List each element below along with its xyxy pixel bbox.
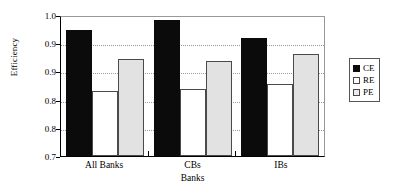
legend-item-label: RE <box>363 76 375 85</box>
bar-re-cbs[interactable] <box>180 89 206 156</box>
bar-ce-ibs[interactable] <box>241 38 267 156</box>
legend-item-ce[interactable]: CE <box>353 62 375 74</box>
x-axis-tick-label: All Banks <box>60 160 148 171</box>
bar-re-ibs[interactable] <box>267 84 293 156</box>
y-axis-title: Efficiency <box>9 17 19 97</box>
bar-groups <box>61 17 324 156</box>
y-axis-tick-label: 0.8 <box>30 124 56 133</box>
bar-ce-all-banks[interactable] <box>66 30 92 156</box>
legend-item-label: PE <box>363 88 374 97</box>
efficiency-bar-chart: Efficiency 1.00.90.90.80.80.7 All BanksC… <box>0 0 400 189</box>
x-axis-title: Banks <box>60 173 325 184</box>
bar-pe-all-banks[interactable] <box>118 59 144 156</box>
plot-area <box>60 16 325 157</box>
y-axis-tick-label: 0.8 <box>30 96 56 105</box>
chart-legend: CEREPE <box>349 58 380 102</box>
y-axis-tick-label: 1.0 <box>30 12 56 21</box>
legend-swatch-icon <box>353 89 360 96</box>
bar-group <box>61 17 149 156</box>
y-axis-tick-label: 0.7 <box>30 153 56 162</box>
bar-re-all-banks[interactable] <box>92 91 118 156</box>
legend-item-re[interactable]: RE <box>353 74 375 86</box>
bar-group <box>149 17 237 156</box>
bar-ce-cbs[interactable] <box>154 20 180 156</box>
legend-item-label: CE <box>363 64 375 73</box>
y-axis-tick-labels: 1.00.90.90.80.80.7 <box>30 16 56 157</box>
x-axis-tick-labels: All BanksCBsIBs <box>60 160 325 171</box>
y-axis-tick-label: 0.9 <box>30 40 56 49</box>
bar-group <box>236 17 324 156</box>
legend-swatch-icon <box>353 65 360 72</box>
bar-pe-ibs[interactable] <box>293 54 319 156</box>
legend-item-pe[interactable]: PE <box>353 86 375 98</box>
y-axis-tick-label: 0.9 <box>30 68 56 77</box>
legend-swatch-icon <box>353 77 360 84</box>
x-axis-tick-label: CBs <box>148 160 236 171</box>
y-axis-tick-mark <box>56 157 60 158</box>
x-axis-tick-label: IBs <box>237 160 325 171</box>
bar-pe-cbs[interactable] <box>206 61 232 156</box>
